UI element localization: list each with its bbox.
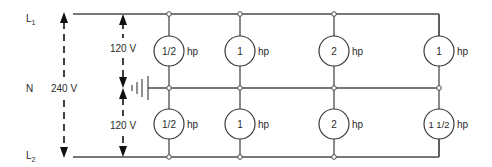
motor-lower-3: 2 hp xyxy=(319,109,364,139)
svg-text:2: 2 xyxy=(331,46,337,57)
line1-label: L1 xyxy=(26,13,36,26)
arrow-up-icon xyxy=(119,88,127,99)
svg-text:1: 1 xyxy=(237,119,243,130)
svg-text:hp: hp xyxy=(187,119,199,130)
motor-lower-2: 1 hp xyxy=(225,109,270,139)
arrow-down-icon xyxy=(119,77,127,88)
voltage-120-lower-label: 120 V xyxy=(110,120,136,131)
svg-text:1/2: 1/2 xyxy=(162,119,176,130)
svg-text:1: 1 xyxy=(237,46,243,57)
arrow-down-icon xyxy=(119,146,127,157)
svg-text:hp: hp xyxy=(352,46,364,57)
svg-text:hp: hp xyxy=(457,46,469,57)
svg-text:1 1/2: 1 1/2 xyxy=(428,119,449,130)
motor-upper-2: 1 hp xyxy=(225,36,270,66)
ground-icon xyxy=(132,76,148,100)
column-wires xyxy=(169,14,439,157)
motor-upper-1: 1/2 hp xyxy=(154,36,199,66)
junction-dots xyxy=(167,12,442,160)
svg-text:hp: hp xyxy=(457,119,469,130)
svg-text:hp: hp xyxy=(187,46,199,57)
arrow-down-icon xyxy=(60,147,68,158)
line2-label: L2 xyxy=(26,150,36,163)
neutral-label: N xyxy=(26,83,33,94)
motor-lower-1: 1/2 hp xyxy=(154,109,199,139)
arrow-up-icon xyxy=(60,12,68,23)
motor-upper-3: 2 hp xyxy=(319,36,364,66)
voltage-240-label: 240 V xyxy=(51,83,77,94)
svg-text:1: 1 xyxy=(436,46,442,57)
motor-lower-4: 1 1/2 hp xyxy=(424,109,469,139)
three-wire-motor-circuit-diagram: L1 N L2 240 V 120 V 120 V xyxy=(0,0,492,167)
motor-upper-4: 1 hp xyxy=(424,36,469,66)
svg-text:hp: hp xyxy=(352,119,364,130)
voltage-120-upper-label: 120 V xyxy=(110,43,136,54)
svg-text:hp: hp xyxy=(258,46,270,57)
svg-text:1/2: 1/2 xyxy=(162,46,176,57)
arrow-up-icon xyxy=(119,14,127,25)
svg-text:hp: hp xyxy=(258,119,270,130)
svg-text:2: 2 xyxy=(331,119,337,130)
